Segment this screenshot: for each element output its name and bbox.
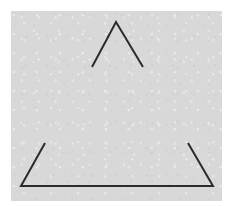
bottom-left-segment [21,143,116,186]
incomplete-triangle-drawing [11,11,222,201]
apex-segment [92,22,143,67]
figure-panel [11,11,222,201]
stimulus-root [0,0,232,206]
bottom-right-segment [116,143,213,186]
